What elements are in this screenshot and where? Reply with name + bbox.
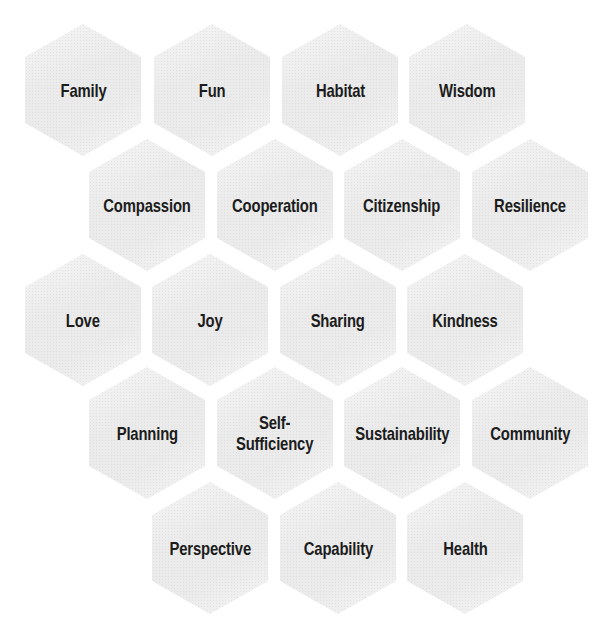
hex-sustainability: Sustainability (344, 367, 460, 499)
hex-label: Health (443, 538, 487, 559)
hex-label: Family (60, 80, 106, 101)
hex-label: Wisdom (439, 80, 496, 101)
hex-love: Love (25, 254, 141, 386)
hex-label: Cooperation (232, 195, 318, 216)
hex-label: Sharing (311, 310, 365, 331)
hex-resilience: Resilience (472, 139, 588, 271)
hex-health: Health (407, 482, 523, 614)
hex-label: Citizenship (363, 195, 440, 216)
hex-label: Sustainability (355, 423, 449, 444)
hex-citizenship: Citizenship (344, 139, 460, 271)
hex-joy: Joy (152, 254, 268, 386)
hex-label: Kindness (432, 310, 497, 331)
hex-label: Self- Sufficiency (236, 412, 313, 454)
hex-label: Joy (197, 310, 222, 331)
hex-cooperation: Cooperation (217, 139, 333, 271)
hex-capability: Capability (280, 482, 396, 614)
hex-fun: Fun (154, 24, 270, 156)
hex-label: Planning (116, 423, 177, 444)
hex-family: Family (25, 24, 141, 156)
hex-label: Community (490, 423, 570, 444)
hex-planning: Planning (89, 367, 205, 499)
hexagon-grid: Family Fun Habitat Wisdom Compassion Coo… (0, 0, 607, 625)
hex-label: Habitat (315, 80, 364, 101)
hex-label: Perspective (169, 538, 250, 559)
hex-kindness: Kindness (407, 254, 523, 386)
hex-label: Capability (303, 538, 372, 559)
hex-label: Love (66, 310, 100, 331)
hex-label: Compassion (103, 195, 190, 216)
hex-sharing: Sharing (280, 254, 396, 386)
hex-perspective: Perspective (152, 482, 268, 614)
hex-label: Fun (199, 80, 226, 101)
hex-habitat: Habitat (282, 24, 398, 156)
hex-wisdom: Wisdom (409, 24, 525, 156)
hex-label: Resilience (494, 195, 566, 216)
hex-community: Community (472, 367, 588, 499)
hex-self-sufficiency: Self- Sufficiency (217, 367, 333, 499)
hex-compassion: Compassion (89, 139, 205, 271)
